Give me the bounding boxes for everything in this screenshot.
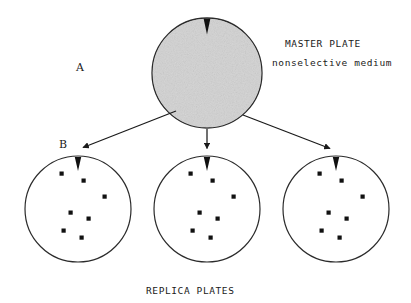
replica-plate-right-dish bbox=[283, 156, 389, 262]
master-plate-group bbox=[152, 18, 262, 128]
colony-dot bbox=[232, 195, 236, 199]
master-plate-agar-texture bbox=[153, 19, 261, 127]
master-plate-label: MASTER PLATE bbox=[285, 39, 361, 49]
colony-dot bbox=[82, 179, 86, 183]
replica-plate-left-dish bbox=[25, 156, 131, 262]
colony-dot bbox=[361, 195, 365, 199]
colony-dot bbox=[320, 229, 324, 233]
colony-dot bbox=[62, 229, 66, 233]
replica-plate-middle-dish bbox=[154, 156, 260, 262]
colony-dot bbox=[345, 217, 349, 221]
panel-label-b: B bbox=[59, 139, 67, 150]
colony-dot bbox=[60, 172, 64, 176]
colony-dot bbox=[80, 236, 84, 240]
replica-plate-left-group bbox=[25, 156, 131, 262]
colony-dot bbox=[338, 236, 342, 240]
replica-plating-figure: MASTER PLATE nonselective medium REPLICA… bbox=[0, 0, 411, 303]
arrow-to-right-plate bbox=[243, 115, 330, 149]
colony-dot bbox=[69, 211, 73, 215]
nonselective-medium-label: nonselective medium bbox=[272, 58, 392, 68]
colony-dot bbox=[318, 172, 322, 176]
colony-dot bbox=[340, 179, 344, 183]
colony-dot bbox=[191, 229, 195, 233]
colony-dot bbox=[189, 172, 193, 176]
replica-plate-right-group bbox=[283, 156, 389, 262]
colony-dot bbox=[216, 217, 220, 221]
colony-dot bbox=[198, 211, 202, 215]
colony-dot bbox=[327, 211, 331, 215]
panel-label-a: A bbox=[76, 62, 84, 73]
replica-plate-middle-group bbox=[154, 156, 260, 262]
colony-dot bbox=[209, 236, 213, 240]
arrow-to-left-plate bbox=[83, 111, 176, 148]
colony-dot bbox=[87, 217, 91, 221]
replica-plates-label: REPLICA PLATES bbox=[146, 286, 234, 296]
colony-dot bbox=[211, 179, 215, 183]
colony-dot bbox=[103, 195, 107, 199]
